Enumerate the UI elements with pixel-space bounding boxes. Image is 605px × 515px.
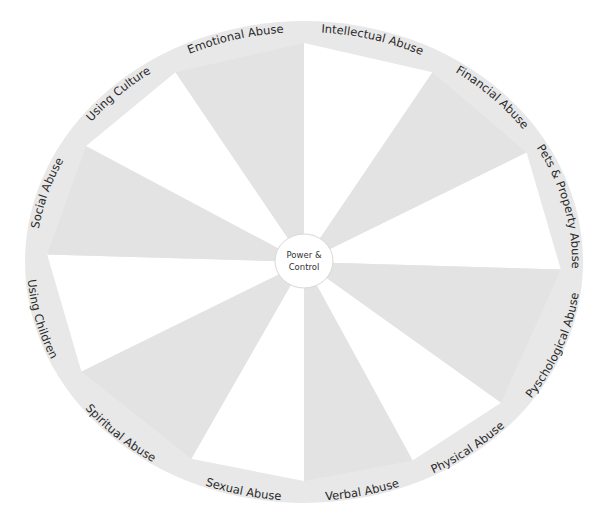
center-circle [275, 234, 333, 288]
center-hub: Power & Control [275, 234, 333, 288]
power-control-wheel: Intellectual AbuseFinancial AbusePets & … [0, 0, 605, 515]
center-label-line1: Power & [286, 250, 321, 260]
center-label-line2: Control [289, 262, 320, 272]
